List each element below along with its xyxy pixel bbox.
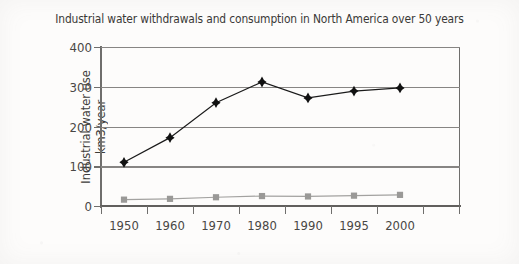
y-tick-300 xyxy=(94,87,101,88)
x-tick-label-1980: 1980 xyxy=(240,218,285,233)
x-tick-1 xyxy=(147,206,148,214)
y-tick-100 xyxy=(94,166,101,167)
x-tick-label-2000: 2000 xyxy=(378,218,423,233)
x-tick-8 xyxy=(459,206,460,214)
gridline-300 xyxy=(101,87,460,88)
x-tick-3 xyxy=(239,206,240,214)
gridline-400 xyxy=(101,47,460,48)
plot-area xyxy=(101,47,460,206)
chart-title: Industrial water withdrawals and consump… xyxy=(18,12,501,26)
x-tick-2 xyxy=(193,206,194,214)
x-tick-label-1995: 1995 xyxy=(332,218,377,233)
y-tick-0 xyxy=(94,206,101,207)
x-tick-6 xyxy=(377,206,378,214)
y-tick-label-100: 100 xyxy=(54,159,92,174)
y-tick-label-300: 300 xyxy=(54,80,92,95)
gridline-200 xyxy=(101,127,460,128)
x-tick-7 xyxy=(423,206,424,214)
x-tick-0 xyxy=(101,206,102,214)
gridline-100 xyxy=(101,166,460,167)
y-tick-200 xyxy=(94,127,101,128)
chart-figure: Industrial water withdrawals and consump… xyxy=(0,0,519,264)
x-tick-label-1970: 1970 xyxy=(194,218,239,233)
x-tick-4 xyxy=(285,206,286,214)
y-tick-400 xyxy=(94,47,101,48)
x-tick-5 xyxy=(331,206,332,214)
x-tick-label-1990: 1990 xyxy=(286,218,331,233)
y-tick-label-0: 0 xyxy=(54,199,92,214)
x-tick-label-1960: 1960 xyxy=(148,218,193,233)
x-tick-label-1950: 1950 xyxy=(102,218,147,233)
y-tick-label-200: 200 xyxy=(54,120,92,135)
y-tick-label-400: 400 xyxy=(54,40,92,55)
